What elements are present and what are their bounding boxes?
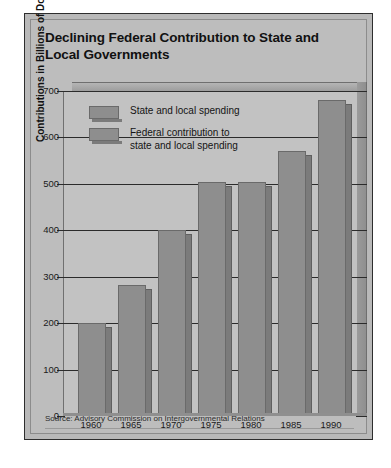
bar-1970[interactable] (158, 230, 186, 416)
bar-side-3d (225, 186, 232, 416)
right-wall-tick (356, 277, 367, 278)
bar-1985[interactable] (278, 151, 306, 416)
gridline (64, 91, 358, 92)
bar-1965[interactable] (118, 285, 146, 416)
bar-side-3d (105, 327, 112, 416)
bar-side-3d (345, 104, 352, 416)
legend-item-state-local: State and local spending (89, 105, 319, 122)
y-axis-title: Contributions in Billions of Dollars (35, 0, 46, 142)
bar-side-3d (145, 289, 152, 416)
right-wall-tick (356, 370, 367, 371)
bar-1975[interactable] (198, 182, 226, 416)
right-wall-tick (356, 184, 367, 185)
y-axis-tick-label: 700 (25, 85, 59, 96)
legend-label-federal: Federal contribution to state and local … (130, 127, 238, 152)
y-axis-tick-label: 500 (25, 178, 59, 189)
chart-figure-inner: Declining Federal Contribution to State … (30, 19, 367, 434)
legend-item-federal: Federal contribution to state and local … (89, 127, 319, 144)
right-wall-tick (356, 230, 367, 231)
right-wall-tick (356, 416, 367, 417)
right-wall-tick (356, 137, 367, 138)
y-axis-tick-label: 300 (25, 271, 59, 282)
bar-1980[interactable] (238, 182, 266, 416)
right-wall-tick (356, 323, 367, 324)
chart-legend: State and local spending Federal contrib… (89, 105, 319, 149)
chart-title: Declining Federal Contribution to State … (45, 29, 355, 63)
bar-1960[interactable] (78, 323, 106, 416)
y-axis-tick-label: 200 (25, 317, 59, 328)
source-note: Source: Advisory Commission on Intergove… (45, 414, 354, 423)
source-divider (45, 428, 354, 429)
plot-right-wall-3d (357, 82, 367, 416)
y-axis-tick-label: 600 (25, 131, 59, 142)
bar-1990[interactable] (318, 100, 346, 416)
bar-side-3d (305, 155, 312, 416)
source-note-wrap: Source: Advisory Commission on Intergove… (45, 414, 354, 423)
y-axis-tick-label: 100 (25, 364, 59, 375)
plot-ceiling-3d (72, 82, 367, 91)
y-axis-tick-label: 400 (25, 224, 59, 235)
right-wall-tick (356, 91, 367, 92)
legend-swatch-federal (89, 128, 119, 141)
legend-swatch-state-local (89, 106, 119, 119)
bar-side-3d (185, 234, 192, 416)
legend-label-state-local: State and local spending (130, 105, 240, 118)
chart-figure-frame: Declining Federal Contribution to State … (24, 13, 373, 440)
bar-side-3d (265, 186, 272, 416)
